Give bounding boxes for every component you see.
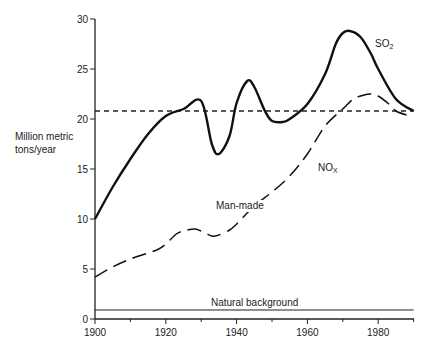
x-tick-label: 1900 [84,327,107,338]
so2-series-line [95,31,414,219]
chart: 051015202530 19001920194019601980 Millio… [0,0,431,355]
y-tick-label: 0 [82,314,88,325]
y-tick-label: 20 [77,114,89,125]
x-ticks: 19001920194019601980 [84,319,414,338]
y-tick-label: 5 [82,264,88,275]
nox-label-sub: X [333,167,338,174]
y-axis-label-line1: Million metric [15,131,73,142]
y-ticks: 051015202530 [77,14,95,325]
so2-label-sub: 2 [389,43,393,50]
y-tick-label: 10 [77,214,89,225]
x-tick-label: 1940 [225,327,248,338]
nox-label-main: NO [318,162,333,173]
natural-background-label: Natural background [211,297,298,308]
so2-label: SO2 [375,38,393,50]
x-tick-label: 1980 [367,327,390,338]
x-tick-label: 1960 [296,327,319,338]
y-tick-label: 25 [77,64,89,75]
y-tick-label: 15 [77,164,89,175]
so2-label-main: SO [375,38,390,49]
nox-series-line [95,94,414,277]
man-made-label: Man-made [216,200,264,211]
y-axis-label-line2: tons/year [15,144,57,155]
nox-label: NOX [318,162,338,174]
x-tick-label: 1920 [155,327,178,338]
y-tick-label: 30 [77,14,89,25]
